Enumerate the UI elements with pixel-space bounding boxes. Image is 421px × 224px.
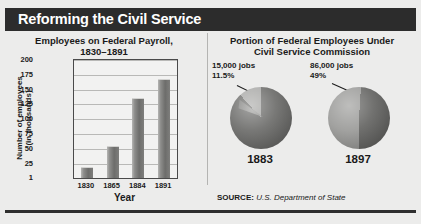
- pie-callout-jobs-1883: 15,000 jobs: [212, 61, 255, 70]
- pie-chart-title: Portion of Federal Employees Under Civil…: [208, 35, 416, 57]
- bar-chart-title-line2: 1830–1891: [80, 46, 128, 57]
- x-axis-tick-1891: 1891: [150, 181, 176, 190]
- y-axis-tick-25: 25: [9, 159, 33, 168]
- source-label: SOURCE:: [217, 193, 254, 202]
- bar-chart-plot-area: [73, 59, 178, 179]
- pie-chart-title-line1: Portion of Federal Employees Under: [230, 35, 394, 46]
- bar-1891: [158, 79, 170, 178]
- bar-chart-bars: [74, 60, 177, 178]
- figure-body: Employees on Federal Payroll, 1830–1891 …: [5, 31, 416, 212]
- x-axis-tick-1865: 1865: [99, 181, 125, 190]
- y-axis-tick-150: 150: [9, 85, 33, 94]
- y-axis-tick-50: 50: [9, 144, 33, 153]
- bar-chart-title: Employees on Federal Payroll, 1830–1891: [5, 35, 203, 57]
- bar-1830: [81, 167, 93, 178]
- y-axis-tick-75: 75: [9, 129, 33, 138]
- figure-root: Reforming the Civil Service Employees on…: [0, 0, 421, 224]
- y-axis-tick-200: 200: [9, 55, 33, 64]
- bar-chart-x-axis-label: Year: [73, 192, 176, 203]
- bottom-rule: [5, 210, 416, 213]
- pie-chart-panel: Portion of Federal Employees Under Civil…: [208, 31, 416, 212]
- pie-callout-1897: 86,000 jobs 49%: [310, 61, 353, 81]
- y-axis-tick-1: 1: [9, 173, 33, 182]
- x-axis-tick-1830: 1830: [73, 181, 99, 190]
- figure-header-band: Reforming the Civil Service: [5, 8, 416, 31]
- pie-callout-1883: 15,000 jobs 11.5%: [212, 61, 255, 81]
- pie-chart-1883: [230, 87, 292, 149]
- x-axis-tick-1884: 1884: [124, 181, 150, 190]
- pie-slices-1897: [328, 87, 390, 149]
- pie-group-1883: 15,000 jobs 11.5% 1883: [210, 61, 310, 181]
- source-note: SOURCE: U.S. Department of State: [217, 193, 346, 202]
- y-axis-tick-175: 175: [9, 70, 33, 79]
- pie-callout-jobs-1897: 86,000 jobs: [310, 61, 353, 70]
- pie-year-label-1897: 1897: [308, 153, 408, 165]
- pie-slices-1883: [230, 87, 292, 149]
- bar-chart-title-line1: Employees on Federal Payroll,: [35, 35, 173, 46]
- pie-group-1897: 86,000 jobs 49% 1897: [308, 61, 408, 181]
- page-title: Reforming the Civil Service: [18, 11, 201, 27]
- pie-callout-percent-1897: 49%: [310, 71, 326, 80]
- pie-year-label-1883: 1883: [210, 153, 310, 165]
- y-axis-tick-125: 125: [9, 99, 33, 108]
- y-axis-tick-100: 100: [9, 114, 33, 123]
- bar-chart-panel: Employees on Federal Payroll, 1830–1891 …: [5, 31, 207, 212]
- bar-1884: [132, 98, 144, 178]
- pie-chart-1897: [328, 87, 390, 149]
- pie-callout-percent-1883: 11.5%: [212, 71, 234, 80]
- pie-chart-title-line2: Civil Service Commission: [254, 46, 370, 57]
- source-value: U.S. Department of State: [256, 193, 345, 202]
- bar-1865: [107, 146, 119, 178]
